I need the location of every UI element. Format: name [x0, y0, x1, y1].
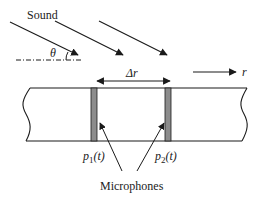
- mic1-signal-label: p1(t): [82, 149, 105, 165]
- microphone-2: [165, 88, 171, 141]
- mic2-pointer: [137, 123, 164, 171]
- tube: [23, 88, 247, 141]
- mic2-signal-label: p2(t): [154, 149, 177, 165]
- direction-r-label: r: [242, 65, 247, 79]
- impedance-tube-diagram: Sound θ Δr r p1(t) p2(t) Microphones: [0, 0, 260, 200]
- sound-ray-2: [55, 21, 123, 55]
- microphones-label: Microphones: [100, 179, 164, 193]
- angle-theta-label: θ: [50, 46, 56, 60]
- microphone-1: [91, 88, 97, 141]
- spacing-label: Δr: [125, 66, 138, 80]
- sound-rays: [10, 21, 167, 55]
- angle-arc: [66, 52, 68, 60]
- tube-left-break: [23, 88, 30, 141]
- sound-label: Sound: [27, 8, 58, 22]
- mic1-pointer: [100, 123, 122, 171]
- sound-ray-3: [99, 21, 167, 55]
- tube-right-break: [241, 88, 247, 141]
